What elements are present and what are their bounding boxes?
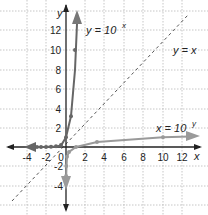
svg-text:2: 2 bbox=[55, 123, 61, 134]
exponential-log-graph: -4 -2 0 2 4 6 8 10 12 12 10 8 6 4 2 -2 -… bbox=[0, 0, 208, 215]
x-tick-labels: -4 -2 0 2 4 6 8 10 12 bbox=[23, 152, 188, 163]
x-axis-label: x bbox=[193, 150, 200, 162]
log-curve-arrow-icon bbox=[186, 131, 200, 141]
exp-curve-label: y = 10 bbox=[85, 24, 117, 36]
y-axis-arrow-up-icon bbox=[63, 4, 69, 12]
svg-text:4: 4 bbox=[101, 152, 107, 163]
exp-curve-label-sup: x bbox=[121, 21, 127, 30]
svg-text:12: 12 bbox=[50, 25, 62, 36]
svg-text:6: 6 bbox=[55, 84, 61, 95]
svg-text:-2: -2 bbox=[54, 161, 63, 172]
svg-text:-4: -4 bbox=[54, 181, 63, 192]
svg-text:-2: -2 bbox=[42, 152, 51, 163]
log-curve-label-sup: y bbox=[191, 119, 197, 128]
svg-text:6: 6 bbox=[121, 152, 127, 163]
exp-curve-arrow-left-icon bbox=[24, 142, 36, 152]
svg-text:8: 8 bbox=[55, 65, 61, 76]
svg-text:2: 2 bbox=[82, 152, 88, 163]
svg-text:10: 10 bbox=[157, 152, 169, 163]
exp-curve bbox=[30, 24, 77, 147]
svg-text:12: 12 bbox=[176, 152, 188, 163]
identity-line-label: y = x bbox=[172, 44, 197, 56]
svg-text:10: 10 bbox=[50, 45, 62, 56]
y-axis-arrow-down-icon bbox=[63, 204, 69, 212]
svg-text:-4: -4 bbox=[23, 152, 32, 163]
svg-text:8: 8 bbox=[140, 152, 146, 163]
log-curve-label: x = 10 bbox=[155, 122, 187, 134]
x-axis-arrow-left-icon bbox=[6, 144, 14, 150]
y-axis-label: y bbox=[56, 7, 64, 19]
identity-line bbox=[12, 15, 188, 201]
exp-curve-arrow-icon bbox=[72, 10, 82, 24]
svg-text:4: 4 bbox=[55, 104, 61, 115]
